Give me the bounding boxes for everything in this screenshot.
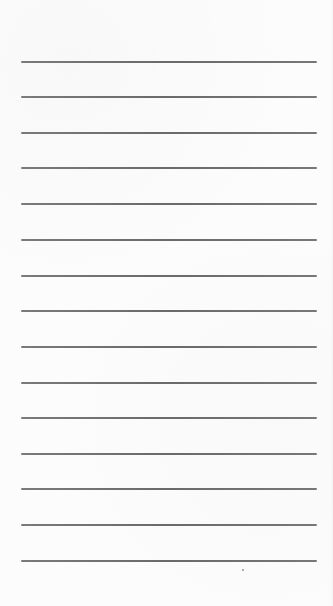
- ruled-line: [21, 275, 317, 277]
- paper-speck: [242, 569, 244, 571]
- ruled-line: [21, 560, 317, 562]
- ruled-line: [21, 167, 317, 169]
- ruled-line: [21, 453, 317, 455]
- ruled-line: [21, 346, 317, 348]
- ruled-line: [21, 96, 317, 98]
- ruled-line: [21, 524, 317, 526]
- ruled-line: [21, 488, 317, 490]
- ruled-line: [21, 132, 317, 134]
- ruled-line: [21, 310, 317, 312]
- ruled-line: [21, 61, 317, 63]
- ruled-line: [21, 382, 317, 384]
- ruled-line: [21, 239, 317, 241]
- ruled-line: [21, 417, 317, 419]
- lined-paper: [0, 0, 333, 606]
- ruled-line: [21, 203, 317, 205]
